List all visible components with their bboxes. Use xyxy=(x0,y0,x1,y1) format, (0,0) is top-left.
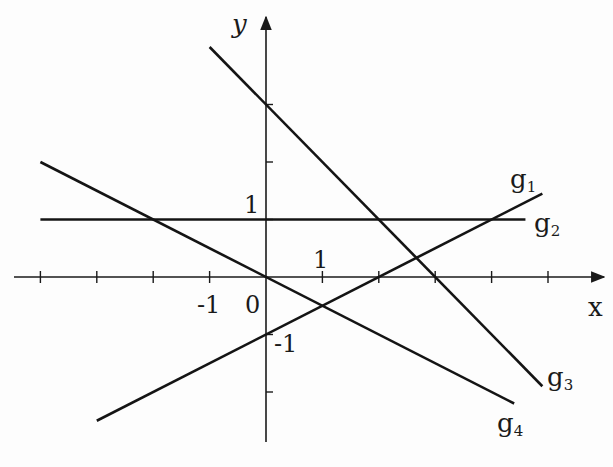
tick-label-y-minus1: -1 xyxy=(274,330,297,358)
label-g1: g1 xyxy=(510,164,536,196)
label-g2: g2 xyxy=(534,208,560,240)
line-g4 xyxy=(40,162,514,404)
tick-label-x-1: 1 xyxy=(313,246,328,274)
y-axis-label: y xyxy=(231,9,247,39)
tick-label-y-1: 1 xyxy=(244,191,259,219)
tick-label-x-minus1: -1 xyxy=(197,291,220,319)
label-g3: g3 xyxy=(547,362,573,394)
line-g3 xyxy=(210,47,543,386)
line-g1 xyxy=(97,194,543,421)
x-axis-label: x xyxy=(588,292,603,322)
y-axis-ticks xyxy=(266,105,273,393)
label-g4: g4 xyxy=(497,408,523,440)
coordinate-plot: y x -1 0 1 1 -1 g1 g2 g3 g4 xyxy=(0,0,613,467)
tick-label-origin: 0 xyxy=(245,291,260,319)
